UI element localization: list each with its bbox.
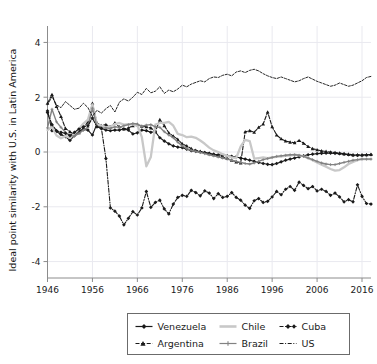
x-tick-label: 1956 <box>81 285 104 295</box>
x-tick-label: 1996 <box>261 285 284 295</box>
chart-figure: 420-2-4 19461956196619761986199620062016… <box>0 0 377 364</box>
x-tick-marks <box>48 278 363 282</box>
series-us <box>48 69 372 116</box>
x-tick-label: 2006 <box>306 285 329 295</box>
y-tick-label: 0 <box>35 147 41 157</box>
x-tick-label: 2016 <box>351 285 374 295</box>
legend-label: Chile <box>242 321 266 332</box>
y-tick-marks <box>44 42 48 261</box>
y-tick-label: -2 <box>32 202 41 212</box>
legend-label: US <box>302 338 315 349</box>
y-tick-label: 4 <box>35 38 41 48</box>
x-tick-label: 1966 <box>126 285 149 295</box>
ideal-point-similarity-line-chart: 420-2-4 19461956196619761986199620062016… <box>0 0 377 364</box>
series-chile <box>48 104 372 170</box>
x-tick-label: 1976 <box>171 285 194 295</box>
series-group <box>46 69 373 226</box>
y-axis-label: Ideal point similarity with U.S. in Lati… <box>7 49 18 272</box>
series-brazil <box>46 107 373 166</box>
y-tick-label: 2 <box>35 93 41 103</box>
y-tick-label: -4 <box>32 257 41 267</box>
legend-label: Argentina <box>158 338 204 349</box>
y-tick-labels: 420-2-4 <box>32 38 41 267</box>
legend-label: Venezuela <box>158 321 207 332</box>
x-tick-label: 1986 <box>216 285 239 295</box>
chart-legend: VenezuelaChileCubaArgentinaBrazilUS <box>128 314 350 355</box>
legend-label: Cuba <box>302 321 327 332</box>
x-tick-label: 1946 <box>36 285 59 295</box>
x-tick-labels: 19461956196619761986199620062016 <box>36 285 374 295</box>
legend-label: Brazil <box>242 338 269 349</box>
